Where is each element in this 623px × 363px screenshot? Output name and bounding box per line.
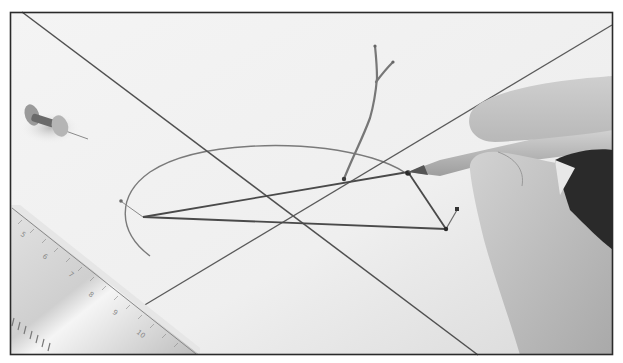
construction-photo: 5 6 7 8 9 10 xyxy=(0,0,623,363)
